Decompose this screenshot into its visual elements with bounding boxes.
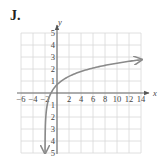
- y-tick-label: 3: [51, 52, 55, 62]
- y-axis-label: y: [57, 17, 62, 27]
- y-tick-label: 3: [51, 124, 55, 134]
- x-tick-label: 10: [113, 94, 122, 104]
- x-tick-label: 2: [67, 94, 71, 104]
- axes: xy: [17, 17, 157, 154]
- x-tick-label: 14: [137, 94, 146, 104]
- y-tick-label: 2: [51, 112, 55, 122]
- y-tick-label: 1: [51, 76, 55, 86]
- y-tick-label: 1: [51, 100, 55, 110]
- log-graph: xy −6−4−224681012145432112345: [0, 0, 160, 165]
- x-tick-label: 6: [91, 94, 95, 104]
- x-tick-label: −6: [16, 94, 25, 104]
- x-tick-label: 8: [103, 94, 107, 104]
- y-tick-label: 2: [51, 64, 55, 74]
- x-tick-label: 4: [79, 94, 84, 104]
- x-tick-label: 12: [125, 94, 134, 104]
- y-tick-label: 5: [51, 148, 55, 158]
- x-axis-label: x: [152, 88, 157, 98]
- y-tick-label: 5: [51, 28, 55, 38]
- x-tick-label: −4: [28, 94, 38, 104]
